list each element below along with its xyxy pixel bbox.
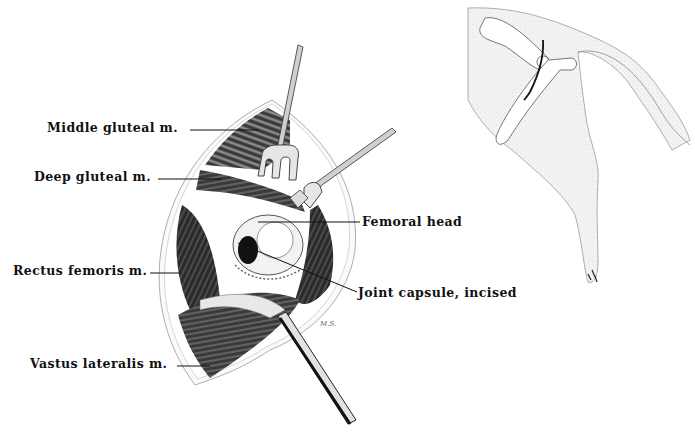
artist-signature: M.S. — [319, 320, 336, 328]
label-vastus-lateralis: Vastus lateralis m. — [30, 357, 167, 371]
label-middle-gluteal: Middle gluteal m. — [47, 121, 178, 135]
label-femoral-head: Femoral head — [362, 215, 462, 229]
surgical-figure: M.S. Middle gluteal m. Deep gluteal m. F… — [0, 0, 695, 435]
label-joint-capsule: Joint capsule, incised — [358, 286, 517, 300]
retractor-lower — [278, 312, 356, 424]
label-deep-gluteal: Deep gluteal m. — [34, 170, 151, 184]
label-rectus-femoris: Rectus femoris m. — [13, 264, 147, 278]
